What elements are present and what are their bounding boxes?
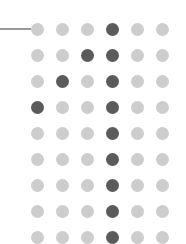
dot-dark <box>106 75 119 88</box>
dot-dark <box>106 23 119 36</box>
dot-dark <box>106 205 119 218</box>
dot-light <box>81 23 94 36</box>
dot-light <box>156 153 169 166</box>
dot-light <box>31 75 44 88</box>
dot-light <box>56 231 69 244</box>
dot-light <box>131 153 144 166</box>
dot-light <box>56 179 69 192</box>
dot-light <box>131 49 144 62</box>
dot-light <box>81 75 94 88</box>
dot-light <box>56 153 69 166</box>
pointer-line <box>0 28 31 30</box>
dot-light <box>156 127 169 140</box>
dot-light <box>31 231 44 244</box>
dot-light <box>156 101 169 114</box>
dot-light <box>31 153 44 166</box>
dot-light <box>56 49 69 62</box>
dot-light <box>31 23 44 36</box>
dot-light <box>56 23 69 36</box>
dot-light <box>156 75 169 88</box>
dot-light <box>131 75 144 88</box>
dot-light <box>31 179 44 192</box>
dot-light <box>131 205 144 218</box>
dot-dark <box>56 75 69 88</box>
dot-light <box>131 23 144 36</box>
dot-light <box>81 101 94 114</box>
dot-light <box>131 127 144 140</box>
dot-light <box>81 127 94 140</box>
dot-dark <box>31 101 44 114</box>
dot-light <box>156 49 169 62</box>
dot-light <box>131 101 144 114</box>
dot-light <box>156 23 169 36</box>
dot-light <box>156 231 169 244</box>
dot-light <box>56 101 69 114</box>
dot-light <box>56 127 69 140</box>
dot-dark <box>81 49 94 62</box>
dot-dark <box>106 49 119 62</box>
dot-light <box>81 231 94 244</box>
dot-light <box>31 127 44 140</box>
dot-light <box>156 205 169 218</box>
dot-light <box>131 231 144 244</box>
dot-dark <box>106 231 119 244</box>
dot-light <box>131 179 144 192</box>
dot-light <box>81 179 94 192</box>
dot-light <box>31 205 44 218</box>
dot-dark <box>106 179 119 192</box>
dot-light <box>81 153 94 166</box>
dot-light <box>31 49 44 62</box>
dot-light <box>56 205 69 218</box>
dot-dark <box>106 127 119 140</box>
dot-dark <box>106 153 119 166</box>
dot-light <box>156 179 169 192</box>
dot-light <box>81 205 94 218</box>
dot-dark <box>106 101 119 114</box>
